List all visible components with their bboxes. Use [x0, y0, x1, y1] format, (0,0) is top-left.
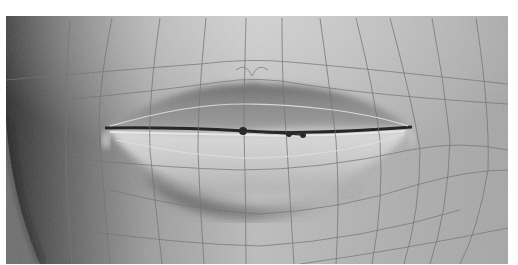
lips-render-image	[6, 16, 508, 264]
lips-render-svg	[6, 16, 508, 264]
